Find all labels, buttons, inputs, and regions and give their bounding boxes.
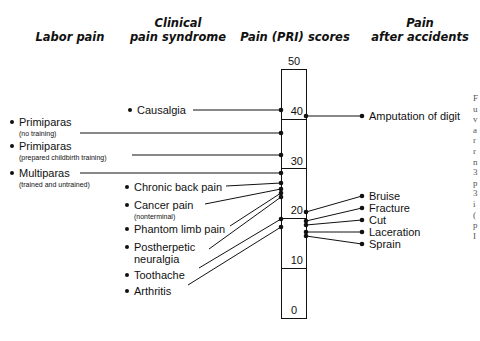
scale-tick-30: 30 [283, 155, 303, 167]
label-amputation-of-digit: Amputation of digit [369, 110, 460, 122]
scale-tick-20: 20 [283, 204, 303, 216]
label-laceration: Laceration [369, 226, 420, 238]
edge-char: n [473, 157, 480, 168]
diagram-lines [0, 0, 480, 341]
label-multiparas: Multiparas [19, 167, 70, 179]
label-toothache: Toothache [134, 269, 185, 281]
edge-char: I [473, 231, 480, 242]
edge-char: r [473, 146, 480, 157]
cropped-caption-edge: F u v a r r n 3 p 3 i ( p I [473, 93, 480, 241]
edge-char: a [473, 125, 480, 136]
edge-char: 3 [473, 167, 480, 178]
label-postherpetic: Postherpetic [134, 241, 195, 253]
label-arthritis: Arthritis [134, 285, 171, 297]
label-sprain: Sprain [369, 238, 401, 250]
edge-char: ( [473, 210, 480, 221]
scale-tick-10: 10 [283, 254, 303, 266]
scale-tick-0: 0 [280, 304, 308, 316]
scale-tick-50: 50 [280, 55, 308, 67]
label-fracture: Fracture [369, 202, 410, 214]
edge-char: v [473, 114, 480, 125]
edge-char: F [473, 93, 480, 104]
edge-char: u [473, 104, 480, 115]
edge-char: p [473, 178, 480, 189]
label-phantom-limb-pain: Phantom limb pain [134, 223, 225, 235]
edge-char: 3 [473, 188, 480, 199]
scale-tick-40: 40 [283, 105, 303, 117]
edge-char: i [473, 199, 480, 210]
label-chronic-back-pain: Chronic back pain [134, 181, 222, 193]
note-nonterminal: (nonterminal) [134, 213, 175, 221]
note-no-training: (no training) [19, 130, 56, 138]
label-primiparas-no-training: Primiparas [19, 116, 72, 128]
edge-char: r [473, 135, 480, 146]
label-bruise: Bruise [369, 190, 400, 202]
note-trained-untrained: (trained and untrained) [19, 181, 90, 189]
label-neuralgia: neuralgia [134, 253, 179, 265]
edge-char: p [473, 220, 480, 231]
label-causalgia: Causalgia [137, 104, 186, 116]
label-cancer-pain: Cancer pain [134, 199, 193, 211]
note-prepared-training: (prepared childbirth training) [19, 154, 107, 162]
label-cut: Cut [369, 214, 386, 226]
label-primiparas-prepared: Primiparas [19, 140, 72, 152]
